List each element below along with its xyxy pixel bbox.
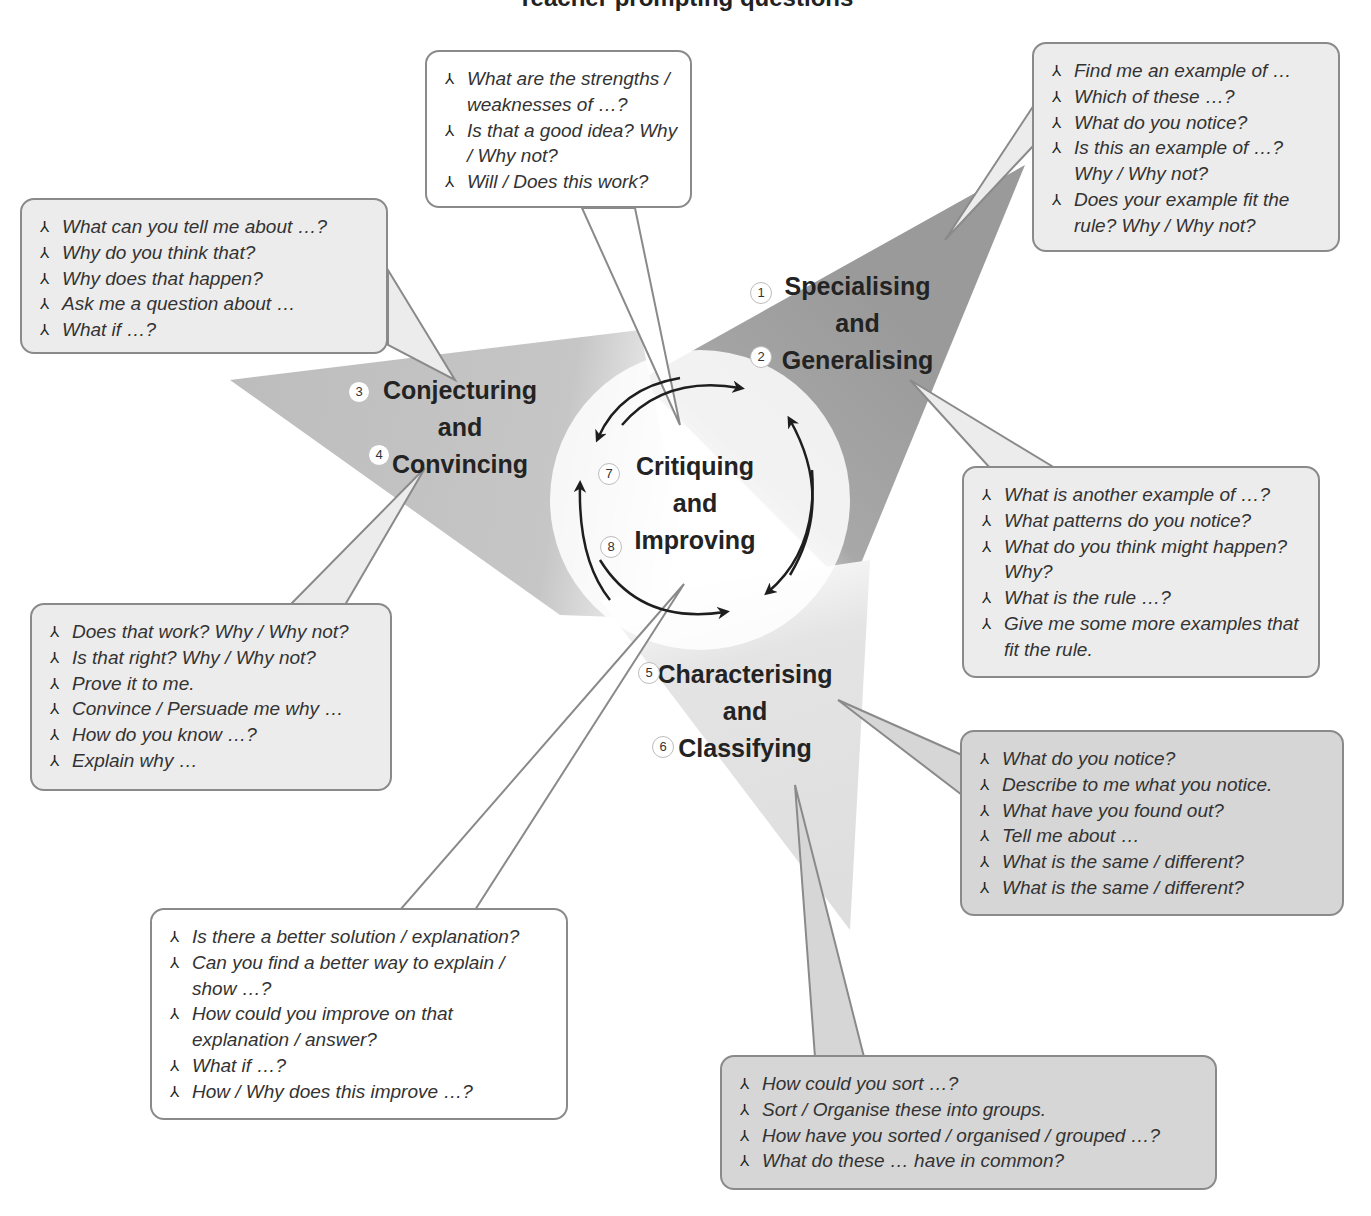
tripod-bullet-icon: ⅄ — [740, 1123, 749, 1149]
prompt-text: Is there a better solution / explanation… — [192, 926, 519, 947]
prompt-item: ⅄What do you notice? — [1052, 110, 1326, 136]
label-line: Characterising — [650, 656, 840, 693]
label-critiquing: Critiquing and Improving — [625, 448, 765, 559]
prompt-item: ⅄How have you sorted / organised / group… — [740, 1123, 1203, 1149]
tripod-bullet-icon: ⅄ — [740, 1148, 749, 1174]
pointer-convincing-bottom — [290, 468, 425, 605]
tripod-bullet-icon: ⅄ — [170, 1079, 179, 1105]
prompt-item: ⅄What if …? — [40, 317, 374, 343]
badge-4: 4 — [368, 444, 390, 466]
prompt-text: What patterns do you notice? — [1004, 510, 1251, 531]
tripod-bullet-icon: ⅄ — [50, 696, 59, 722]
badge-8: 8 — [600, 536, 622, 558]
badge-1: 1 — [750, 282, 772, 304]
prompt-text: Tell me about … — [1002, 825, 1140, 846]
tripod-bullet-icon: ⅄ — [980, 823, 989, 849]
label-specialising: Specialising and Generalising — [770, 268, 945, 379]
prompt-text: Will / Does this work? — [467, 171, 648, 192]
prompt-item: ⅄What is the same / different? — [980, 875, 1330, 901]
prompt-text: Explain why … — [72, 750, 198, 771]
page-title: Teacher prompting questions — [0, 0, 1371, 12]
callout-conjecturing-top: ⅄What can you tell me about …?⅄Why do yo… — [20, 198, 388, 354]
label-line: Critiquing — [625, 448, 765, 485]
tripod-bullet-icon: ⅄ — [40, 266, 49, 292]
prompt-item: ⅄Is that right? Why / Why not? — [50, 645, 378, 671]
label-line: Improving — [625, 522, 765, 559]
label-line: and — [770, 305, 945, 342]
label-characterising: Characterising and Classifying — [650, 656, 840, 767]
tripod-bullet-icon: ⅄ — [1052, 84, 1061, 110]
label-line: Convincing — [370, 446, 550, 483]
callout-critiquing-top: ⅄What are the strengths / weaknesses of … — [425, 50, 692, 208]
tripod-bullet-icon: ⅄ — [50, 722, 59, 748]
pointer-generalising-right — [910, 380, 1055, 468]
tripod-bullet-icon: ⅄ — [980, 746, 989, 772]
tripod-bullet-icon: ⅄ — [982, 482, 991, 508]
prompt-text: How could you improve on that explanatio… — [192, 1003, 453, 1050]
callout-specialising-top: ⅄Find me an example of …⅄Which of these … — [1032, 42, 1340, 252]
badge-7: 7 — [598, 463, 620, 485]
tripod-bullet-icon: ⅄ — [170, 1053, 179, 1079]
tripod-bullet-icon: ⅄ — [445, 118, 454, 144]
prompt-item: ⅄Prove it to me. — [50, 671, 378, 697]
prompt-item: ⅄What have you found out? — [980, 798, 1330, 824]
tripod-bullet-icon: ⅄ — [40, 214, 49, 240]
callout-characterising-right: ⅄What do you notice?⅄Describe to me what… — [960, 730, 1344, 916]
prompt-item: ⅄How do you know …? — [50, 722, 378, 748]
prompt-text: What if …? — [62, 319, 156, 340]
prompt-text: How have you sorted / organised / groupe… — [762, 1125, 1160, 1146]
tripod-bullet-icon: ⅄ — [980, 875, 989, 901]
prompt-text: Describe to me what you notice. — [1002, 774, 1272, 795]
prompt-text: Can you find a better way to explain / s… — [192, 952, 505, 999]
prompt-text: What is another example of …? — [1004, 484, 1270, 505]
prompt-text: Prove it to me. — [72, 673, 195, 694]
prompt-text: What is the same / different? — [1002, 877, 1244, 898]
label-line: Specialising — [770, 268, 945, 305]
tripod-bullet-icon: ⅄ — [50, 748, 59, 774]
prompt-item: ⅄How could you improve on that explanati… — [170, 1001, 554, 1053]
badge-2: 2 — [750, 346, 772, 368]
prompt-text: Is that right? Why / Why not? — [72, 647, 316, 668]
label-line: Generalising — [770, 342, 945, 379]
callout-convincing-bottom: ⅄Does that work? Why / Why not?⅄Is that … — [30, 603, 392, 791]
badge-6: 6 — [652, 736, 674, 758]
prompt-text: What have you found out? — [1002, 800, 1224, 821]
prompt-text: What do you notice? — [1074, 112, 1247, 133]
prompt-text: How do you know …? — [72, 724, 257, 745]
prompt-item: ⅄Tell me about … — [980, 823, 1330, 849]
tripod-bullet-icon: ⅄ — [982, 508, 991, 534]
prompt-text: Find me an example of … — [1074, 60, 1292, 81]
tripod-bullet-icon: ⅄ — [50, 645, 59, 671]
prompt-item: ⅄What are the strengths / weaknesses of … — [445, 66, 678, 118]
tripod-bullet-icon: ⅄ — [170, 950, 179, 976]
prompt-item: ⅄Is there a better solution / explanatio… — [170, 924, 554, 950]
prompt-item: ⅄What is the same / different? — [980, 849, 1330, 875]
prompt-item: ⅄What do you think might happen? Why? — [982, 534, 1306, 586]
prompt-item: ⅄Find me an example of … — [1052, 58, 1326, 84]
prompt-text: What do you notice? — [1002, 748, 1175, 769]
prompt-item: ⅄What do you notice? — [980, 746, 1330, 772]
label-line: Conjecturing — [370, 372, 550, 409]
tripod-bullet-icon: ⅄ — [40, 291, 49, 317]
prompt-text: What is the rule …? — [1004, 587, 1171, 608]
prompt-text: What are the strengths / weaknesses of …… — [467, 68, 670, 115]
prompt-item: ⅄What if …? — [170, 1053, 554, 1079]
prompt-item: ⅄Describe to me what you notice. — [980, 772, 1330, 798]
tripod-bullet-icon: ⅄ — [740, 1071, 749, 1097]
label-conjecturing: Conjecturing and Convincing — [370, 372, 550, 483]
prompt-text: Ask me a question about … — [62, 293, 295, 314]
pointer-improving-bottom — [400, 584, 684, 910]
tripod-bullet-icon: ⅄ — [982, 585, 991, 611]
tripod-bullet-icon: ⅄ — [1052, 187, 1061, 213]
tripod-bullet-icon: ⅄ — [980, 849, 989, 875]
prompt-item: ⅄What can you tell me about …? — [40, 214, 374, 240]
prompt-text: What can you tell me about …? — [62, 216, 327, 237]
prompt-text: Does that work? Why / Why not? — [72, 621, 349, 642]
prompt-text: Give me some more examples that fit the … — [1004, 613, 1299, 660]
prompt-text: What if …? — [192, 1055, 286, 1076]
prompt-item: ⅄Is this an example of …? Why / Why not? — [1052, 135, 1326, 187]
tripod-bullet-icon: ⅄ — [445, 169, 454, 195]
callout-improving-bottom: ⅄Is there a better solution / explanatio… — [150, 908, 568, 1120]
badge-3: 3 — [348, 381, 370, 403]
prompt-item: ⅄Why do you think that? — [40, 240, 374, 266]
